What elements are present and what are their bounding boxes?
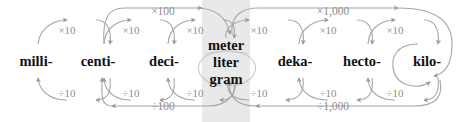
- arc-hecto-to-kilo-multiply-tail: [424, 20, 438, 44]
- label-divide-base-to-deci: ÷10: [186, 88, 203, 99]
- label-divide-kilo-to-base-1000: ÷1,000: [317, 101, 349, 113]
- label-divide-base-to-centi-100: ÷100: [151, 101, 175, 113]
- arc-milli-to-centi-multiply-tail: [96, 20, 110, 44]
- arc-kilo-to-hecto-divide-tail: [424, 78, 438, 100]
- label-divide-deci-to-centi: ÷10: [122, 88, 139, 99]
- term-deci: deci-: [149, 54, 179, 69]
- label-divide-hecto-to-deka: ÷10: [319, 88, 336, 99]
- label-multiply-deci-to-base: ×10: [186, 25, 203, 36]
- term-hecto: hecto-: [343, 54, 381, 69]
- arc-centi-to-deci-multiply-tail: [160, 20, 174, 44]
- term-centi: centi-: [81, 54, 116, 69]
- label-divide-centi-to-milli: ÷10: [58, 88, 75, 99]
- arc-base-to-deka-multiply-tail: [288, 20, 303, 44]
- arc-base-to-deka-multiply: [226, 20, 249, 38]
- base-unit-liter: liter: [208, 54, 244, 71]
- label-divide-deka-to-base: ÷10: [250, 88, 267, 99]
- arc-deka-to-hecto-multiply-tail: [357, 20, 372, 44]
- label-multiply-centi-to-deci: ×10: [122, 25, 139, 36]
- arc-deka-to-base-divide-tail: [286, 78, 303, 100]
- arc-hecto-to-deka-divide-tail: [357, 78, 372, 100]
- label-multiply-deka-to-hecto: ×10: [319, 25, 336, 36]
- term-kilo: kilo-: [413, 54, 441, 69]
- base-unit-gram: gram: [208, 71, 244, 88]
- base-unit-meter: meter: [208, 37, 244, 54]
- label-multiply-base-to-kilo-1000: ×1,000: [317, 6, 349, 18]
- label-multiply-hecto-to-kilo: ×10: [386, 25, 403, 36]
- arc-centi-to-milli-divide-tail: [96, 78, 110, 100]
- term-base-unit: meter liter gram: [208, 37, 244, 88]
- label-multiply-centi-to-base-100: ×100: [151, 6, 175, 18]
- label-divide-kilo-to-hecto: ÷10: [386, 88, 403, 99]
- arc-deci-to-centi-divide-tail: [160, 78, 174, 100]
- term-deka: deka-: [278, 54, 313, 69]
- label-multiply-base-to-deka: ×10: [250, 25, 267, 36]
- label-multiply-milli-to-centi: ×10: [58, 25, 75, 36]
- metric-conversion-diagram: milli- centi- deci- meter liter gram dek…: [0, 0, 461, 122]
- term-milli: milli-: [19, 54, 52, 69]
